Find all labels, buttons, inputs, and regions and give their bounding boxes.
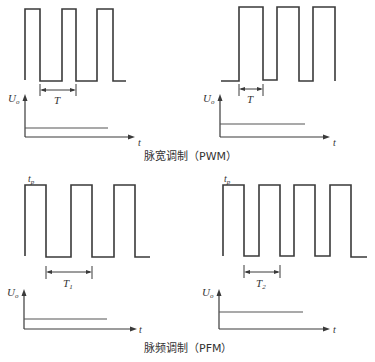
- t-label: t: [333, 324, 336, 335]
- uo-axis-arrow-icon: [22, 289, 27, 296]
- uo-label: Uo: [8, 92, 20, 106]
- pulse-waveform: [25, 9, 126, 81]
- period-label: T: [54, 94, 61, 106]
- period-label: T: [247, 93, 254, 105]
- t-label: t: [138, 137, 141, 148]
- t-axis-arrow-icon: [323, 327, 330, 332]
- panel-pwm-narrow: T Uo t: [8, 9, 141, 148]
- output-axes: Uo t: [202, 286, 336, 335]
- output-axes: Uo t: [7, 286, 142, 335]
- pulse-width-label: tp: [224, 173, 231, 186]
- panel-pwm-wide: T Uo t: [203, 7, 336, 148]
- period-dimension: T1: [46, 266, 92, 291]
- uo-axis-arrow-icon: [218, 94, 223, 101]
- t-label: t: [139, 324, 142, 335]
- uo-label: Uo: [202, 286, 214, 300]
- period-dimension: T: [40, 84, 76, 106]
- period-label: T2: [256, 277, 266, 291]
- uo-axis-arrow-icon: [23, 94, 28, 101]
- uo-label: Uo: [203, 92, 215, 106]
- caption-pwm: 脉宽调制（PWM）: [144, 149, 237, 163]
- t-axis-arrow-icon: [130, 327, 137, 332]
- period-label: T1: [63, 277, 73, 291]
- pwm-pfm-diagram: T Uo t T Uo t: [0, 0, 375, 362]
- t-label: t: [333, 137, 336, 148]
- pulse-width-label: tp: [28, 173, 35, 186]
- uo-label: Uo: [7, 286, 19, 300]
- pulse-waveform: [25, 185, 150, 257]
- output-axes: Uo t: [8, 92, 141, 148]
- output-axes: Uo t: [203, 92, 336, 148]
- t-axis-arrow-icon: [323, 135, 330, 140]
- panel-pfm-t2: tp T2 Uo t: [202, 173, 367, 335]
- caption-pfm: 脉频调制（PFM）: [144, 341, 232, 355]
- uo-axis-arrow-icon: [217, 289, 222, 296]
- pulse-waveform: [223, 185, 367, 257]
- t-axis-arrow-icon: [128, 135, 135, 140]
- panel-pfm-t1: tp T1 Uo t: [7, 173, 150, 335]
- period-dimension: T: [239, 84, 263, 105]
- period-dimension: T2: [244, 265, 280, 291]
- pulse-waveform: [221, 7, 335, 81]
